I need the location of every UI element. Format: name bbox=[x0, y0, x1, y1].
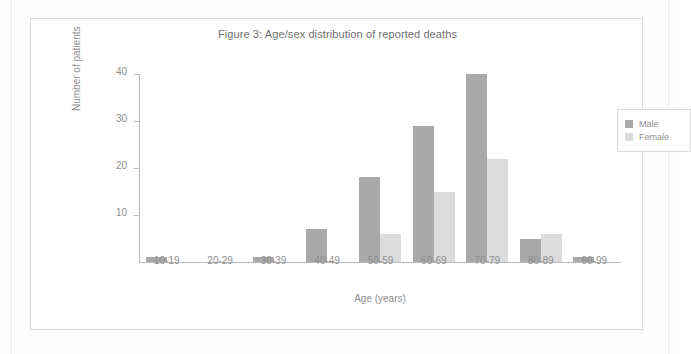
x-axis-tick-label: 30-39 bbox=[247, 255, 300, 266]
y-axis-tick: 30 bbox=[134, 121, 139, 122]
x-axis-tick-label: 60-69 bbox=[407, 255, 460, 266]
bar-male-60-69 bbox=[413, 126, 434, 262]
y-axis-tick-label: 40 bbox=[116, 66, 127, 77]
x-axis-tick-label: 70-79 bbox=[461, 255, 514, 266]
legend-label: Female bbox=[639, 132, 669, 142]
y-axis-title: Number of patients bbox=[71, 27, 82, 112]
x-axis-tick-label: 80-89 bbox=[514, 255, 567, 266]
x-axis-tick-label: 20-29 bbox=[193, 255, 246, 266]
plot-axes: 40 30 20 10 bbox=[139, 74, 621, 262]
bar-male-50-59 bbox=[359, 177, 380, 262]
y-axis-tick: 10 bbox=[134, 215, 139, 216]
legend-swatch-icon bbox=[625, 133, 633, 141]
bar-group bbox=[193, 74, 246, 262]
y-axis-tick-label: 20 bbox=[116, 160, 127, 171]
bar-female-70-79 bbox=[487, 159, 508, 262]
legend-swatch-icon bbox=[625, 120, 633, 128]
page-margin-rule-left bbox=[11, 0, 12, 354]
x-axis-tick-labels: 10-1920-2930-3940-4950-5960-6970-7980-89… bbox=[140, 255, 621, 266]
y-axis-tick: 40 bbox=[134, 74, 139, 75]
legend-item-male: Male bbox=[625, 119, 683, 129]
x-axis-title: Age (years) bbox=[139, 293, 621, 304]
bar-male-70-79 bbox=[466, 74, 487, 262]
y-axis-tick-label: 30 bbox=[116, 113, 127, 124]
y-axis-tick-label: 10 bbox=[116, 207, 127, 218]
figure-title: Figure 3: Age/sex distribution of report… bbox=[31, 28, 644, 40]
bar-group bbox=[247, 74, 300, 262]
x-axis-tick-label: 90-99 bbox=[568, 255, 621, 266]
bar-chart-plot: Number of patients 40 30 20 10 10-192 bbox=[101, 61, 621, 309]
x-axis-tick-label: 10-19 bbox=[140, 255, 193, 266]
bar-group bbox=[514, 74, 567, 262]
bar-female-60-69 bbox=[434, 192, 455, 263]
x-axis-tick-label: 40-49 bbox=[300, 255, 353, 266]
figure-frame: Figure 3: Age/sex distribution of report… bbox=[30, 18, 643, 330]
bar-group bbox=[407, 74, 460, 262]
bar-group bbox=[140, 74, 193, 262]
legend-item-female: Female bbox=[625, 132, 683, 142]
bar-group bbox=[354, 74, 407, 262]
legend-label: Male bbox=[639, 119, 659, 129]
x-axis-tick-label: 50-59 bbox=[354, 255, 407, 266]
bar-series-container bbox=[140, 74, 621, 262]
bar-group bbox=[300, 74, 353, 262]
page-margin-rule-right bbox=[668, 0, 669, 354]
bar-group bbox=[568, 74, 621, 262]
bar-group bbox=[461, 74, 514, 262]
y-axis-tick: 20 bbox=[134, 168, 139, 169]
chart-legend: MaleFemale bbox=[617, 109, 691, 152]
